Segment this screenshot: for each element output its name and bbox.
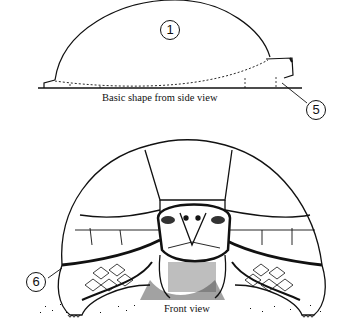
- front-view-drawing: [40, 140, 325, 317]
- side-view-drawing: [38, 0, 307, 103]
- callout-6: 6: [26, 272, 46, 292]
- callout-5: 5: [306, 100, 326, 120]
- diagram-artwork: [0, 0, 347, 323]
- front-view-caption: Front view: [164, 303, 210, 314]
- callout-1: 1: [160, 20, 180, 40]
- side-view-caption: Basic shape from side view: [102, 92, 217, 103]
- tortoise-diagram: 1 5 Basic shape from side view 6 Front v…: [0, 0, 347, 323]
